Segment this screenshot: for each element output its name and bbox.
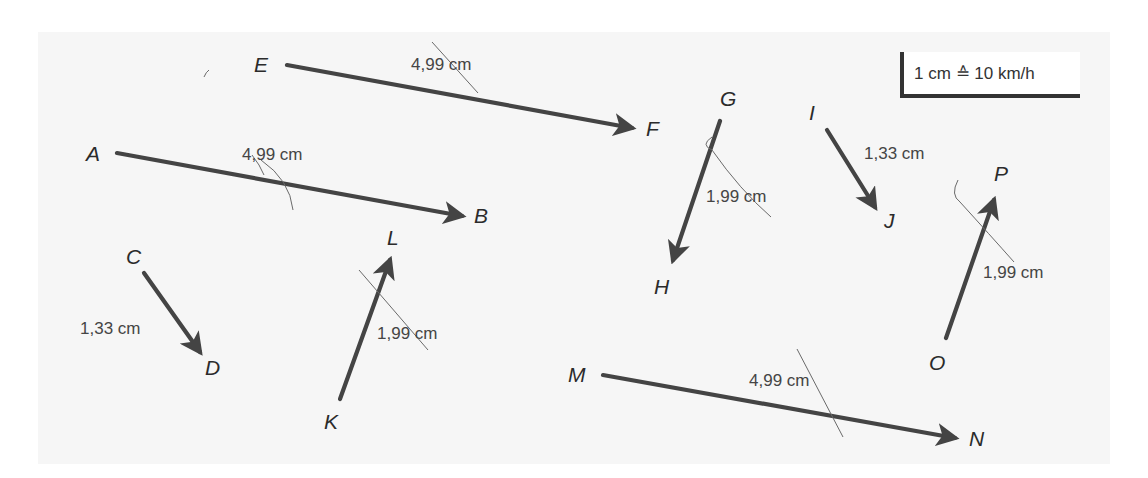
vector-kl: K L 1,99 cm [324,226,437,433]
length-label-ab: 4,99 cm [242,145,302,164]
length-label-mn: 4,99 cm [749,371,809,390]
scale-legend-label: 1 cm ≙ 10 km/h [914,63,1035,84]
vector-ef: E F 4,99 cm [254,42,660,140]
point-label-i: I [809,101,815,124]
point-label-a: A [84,142,100,165]
vector-cd: C D 1,33 cm [80,245,220,379]
point-label-n: N [969,427,985,450]
point-label-k: K [324,410,339,433]
measure-arc-mark [954,180,1014,262]
stray-pencil-mark [204,70,209,77]
point-label-g: G [720,87,736,110]
point-label-m: M [568,363,586,386]
scale-legend: 1 cm ≙ 10 km/h [900,52,1080,98]
point-label-c: C [126,245,142,268]
point-label-d: D [205,356,220,379]
length-label-kl: 1,99 cm [377,324,437,343]
vector-ab: A B 4,99 cm [84,142,488,227]
point-label-f: F [646,117,660,140]
vector-op: O P 1,99 cm [929,162,1043,374]
point-label-l: L [387,226,399,249]
length-label-op: 1,99 cm [983,263,1043,282]
point-label-o: O [929,351,945,374]
vector-mn: M N 4,99 cm [568,349,985,450]
length-label-gh: 1,99 cm [706,187,766,206]
length-label-ij: 1,33 cm [864,144,924,163]
measure-arc-mark [797,349,843,437]
vector-ij: I J 1,33 cm [809,101,924,232]
point-label-p: P [994,162,1008,185]
length-label-ef: 4,99 cm [411,55,471,74]
point-label-j: J [883,209,895,232]
vector-gh: G H 1,99 cm [654,87,771,298]
point-label-b: B [474,204,488,227]
point-label-h: H [654,275,670,298]
point-label-e: E [254,53,269,76]
length-label-cd: 1,33 cm [80,319,140,338]
